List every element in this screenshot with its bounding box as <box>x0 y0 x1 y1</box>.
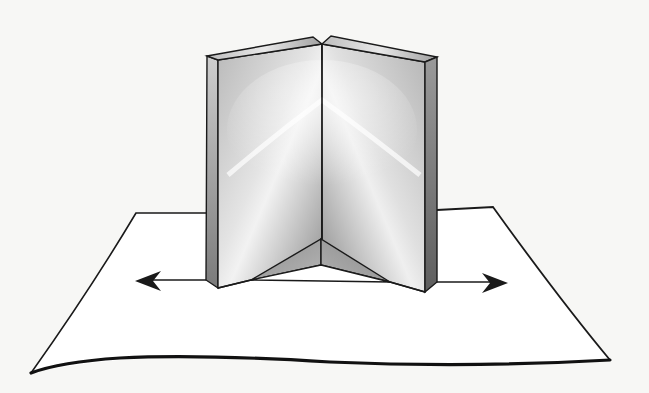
right-mirror-edge <box>425 57 437 292</box>
diagram-canvas <box>0 0 649 393</box>
left-mirror-edge <box>206 56 218 288</box>
mirror-diagram <box>0 0 649 393</box>
